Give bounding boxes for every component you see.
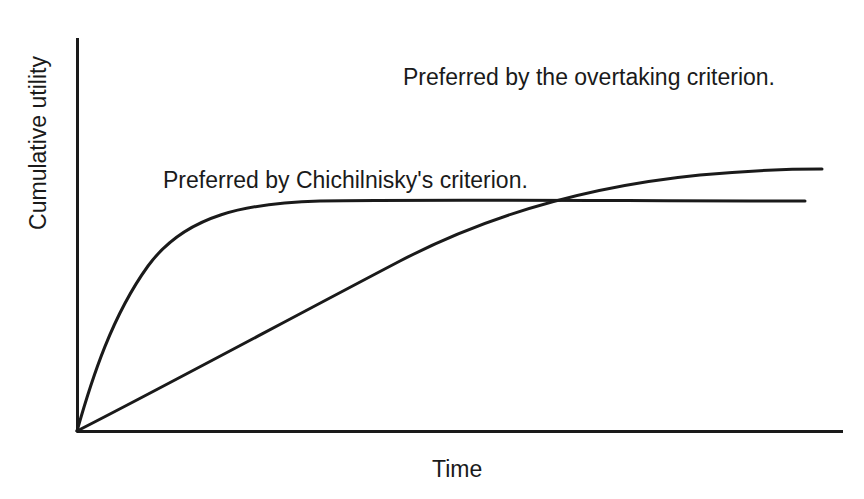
figure-container: Cumulative utility Preferred by the over… [0, 0, 864, 499]
x-axis-label: Time [432, 458, 482, 481]
y-axis-label: Cumulative utility [27, 56, 50, 230]
annotation-overtaking-criterion: Preferred by the overtaking criterion. [403, 66, 775, 89]
overtaking-criterion-curve [77, 169, 822, 431]
annotation-chichilnisky-criterion: Preferred by Chichilnisky's criterion. [163, 169, 528, 192]
chichilnisky-criterion-curve [77, 200, 805, 431]
